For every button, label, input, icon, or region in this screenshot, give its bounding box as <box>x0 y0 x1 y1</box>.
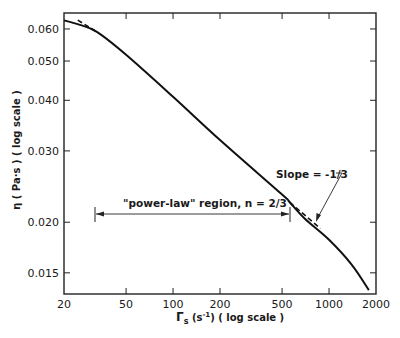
x-tick-label: 1000 <box>315 298 343 311</box>
x-tick-label: 2000 <box>362 298 390 311</box>
y-tick-label: 0.020 <box>28 216 60 229</box>
y-tick-label: 0.030 <box>28 145 60 158</box>
y-tick-label: 0.040 <box>28 94 60 107</box>
y-axis-label: η ( Pa·s ) ( log scale ) <box>11 90 22 210</box>
y-tick-label: 0.015 <box>28 267 60 280</box>
slope-label: Slope = -1/3 <box>276 168 348 180</box>
power-law-label: "power-law" region, n = 2/3 <box>123 197 287 209</box>
x-tick-label: 20 <box>57 298 71 311</box>
chart: 205010020050010002000 0.0150.0200.0300.0… <box>0 0 400 338</box>
x-tick-label: 500 <box>272 298 293 311</box>
x-tick-label: 200 <box>210 298 231 311</box>
y-tick-label: 0.050 <box>28 55 60 68</box>
x-tick-label: 50 <box>119 298 133 311</box>
y-tick-label: 0.060 <box>28 23 60 36</box>
